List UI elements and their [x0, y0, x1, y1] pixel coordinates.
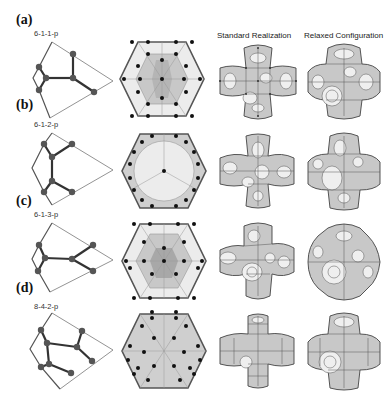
foam-standard-d	[218, 312, 298, 392]
foam-relaxed-b	[304, 132, 384, 212]
foam-standard-c	[218, 222, 298, 302]
hex-tiling-b	[120, 132, 208, 210]
hex-tiling-a	[118, 40, 206, 118]
foam-standard-a	[218, 42, 298, 122]
foam-relaxed-c	[304, 222, 384, 302]
foam-standard-b	[218, 132, 298, 212]
column-header-standard: Standard Realization	[217, 31, 291, 40]
hex-tiling-d	[120, 312, 208, 390]
hex-tiling-c	[120, 222, 208, 300]
column-header-relaxed: Relaxed Configuration	[304, 31, 383, 40]
foam-relaxed-d	[304, 312, 384, 392]
foam-relaxed-a	[304, 42, 384, 122]
kite-graph-d	[0, 0, 120, 404]
